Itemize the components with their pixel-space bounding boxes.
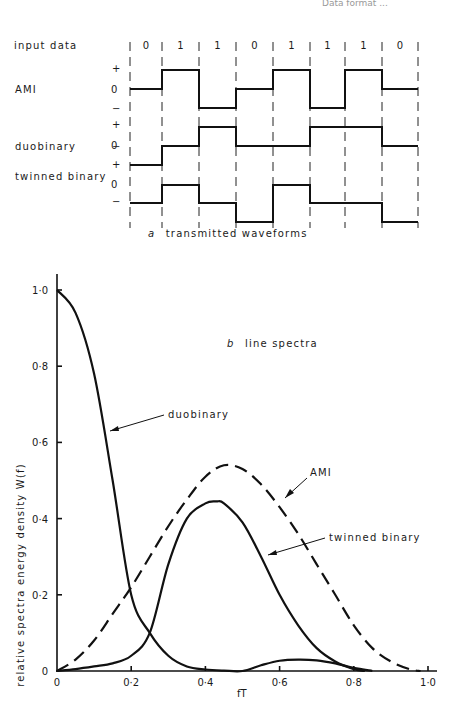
annotation-twinned-binary: twinned binary <box>268 532 421 555</box>
arrowhead-icon <box>268 550 277 555</box>
x-axis-label: fT <box>237 688 248 699</box>
level-plus-twinned: + <box>112 159 120 170</box>
chart-title-text: line spectra <box>245 338 318 349</box>
input-bit-label: 0 <box>251 40 257 51</box>
arrowhead-icon <box>285 489 294 498</box>
level-minus-ami: − <box>112 103 120 114</box>
level-minus-duobinary: − <box>112 141 120 152</box>
input-bit-label: 1 <box>214 40 220 51</box>
level-zero-ami: 0 <box>111 84 117 95</box>
header-fragment: Data format ... <box>322 0 388 8</box>
x-tick-label: 0·8 <box>346 677 362 688</box>
input-bit-label: 1 <box>324 40 330 51</box>
curve-duobinary <box>57 290 372 671</box>
curve-twinned-binary <box>57 501 365 671</box>
waveform-twinned-binary <box>130 185 418 222</box>
level-minus-twinned: − <box>112 196 120 207</box>
chart-title: b line spectra <box>227 338 318 349</box>
x-tick-label: 0·6 <box>272 677 288 688</box>
y-tick-label: 0·2 <box>32 590 48 601</box>
waveform-ami <box>130 70 418 108</box>
level-plus-ami: + <box>112 63 120 74</box>
panel-a-caption: a transmitted waveforms <box>148 228 308 239</box>
panel-a-letter: a <box>148 228 155 239</box>
row-label-input-data: input data <box>14 40 77 51</box>
annotation-duobinary: duobinary <box>110 409 229 431</box>
x-ticks: 00·20·40·60·81·0 <box>54 666 436 688</box>
annotation-label-ami: AMI <box>310 467 332 478</box>
x-tick-label: 0·4 <box>197 677 213 688</box>
x-tick-label: 0·2 <box>123 677 139 688</box>
y-tick-label: 0·6 <box>32 437 48 448</box>
annotation-label-twinned-binary: twinned binary <box>329 532 421 543</box>
arrowhead-icon <box>110 426 119 431</box>
level-zero-twinned: 0 <box>111 179 117 190</box>
waveform-traces <box>130 70 418 222</box>
input-bit-label: 0 <box>397 40 403 51</box>
y-axis-label: relative spectra energy density W(f) <box>15 463 26 687</box>
x-tick-label: 0 <box>54 677 60 688</box>
panel-a-caption-text: transmitted waveforms <box>166 228 308 239</box>
y-tick-label: 0·4 <box>32 514 48 525</box>
input-bit-label: 1 <box>360 40 366 51</box>
annotation-label-duobinary: duobinary <box>168 409 229 420</box>
panel-b-line-spectra: 00·20·40·60·81·0 00·20·40·60·81·0 relati… <box>15 274 437 699</box>
y-tick-label: 1·0 <box>32 285 48 296</box>
leader-line-twinned-binary <box>268 538 325 555</box>
curve-ami <box>57 465 421 671</box>
input-bit-label: 1 <box>288 40 294 51</box>
level-plus-duobinary: + <box>112 119 120 130</box>
figure-canvas: Data format ... input data AMI duobinary… <box>0 0 457 703</box>
row-label-duobinary: duobinary <box>15 141 76 152</box>
row-label-twinned-binary: twinned binary <box>15 171 107 182</box>
waveform-duobinary <box>130 127 418 165</box>
level-markers: + 0 − + 0 − + 0 − <box>111 63 120 207</box>
chart-title-letter: b <box>227 338 235 349</box>
input-bit-label: 1 <box>177 40 183 51</box>
x-tick-label: 1·0 <box>420 677 436 688</box>
panel-a-waveforms: input data AMI duobinary twinned binary … <box>14 40 418 239</box>
input-bit-label: 0 <box>143 40 149 51</box>
row-label-ami: AMI <box>15 84 37 95</box>
y-tick-label: 0 <box>42 666 48 677</box>
annotation-ami: AMI <box>285 467 332 498</box>
y-tick-label: 0·8 <box>32 361 48 372</box>
